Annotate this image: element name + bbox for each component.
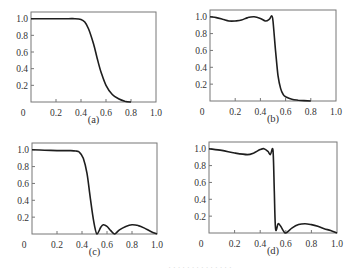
figure-canvas: 0.20.40.60.81.000.20.40.60.81.0(a)0.20.4… [0, 0, 354, 274]
x-tick-label: 1.0 [331, 239, 343, 249]
y-tick-label: 1.0 [195, 12, 207, 22]
plot-frame [32, 143, 157, 234]
panel-caption: (b) [267, 113, 280, 125]
x-tick-label: 1.0 [150, 108, 162, 118]
y-tick-label: 0.8 [195, 29, 207, 39]
chart-panel-a: 0.20.40.60.81.000.20.40.60.81.0(a) [16, 12, 162, 126]
chart-panel-d: 0.20.40.60.81.000.20.40.60.81.0(d) [194, 142, 343, 257]
y-tick-label: 0.4 [194, 195, 206, 205]
y-tick-label: 0.2 [195, 80, 207, 90]
x-tick-label: 0.4 [76, 240, 88, 250]
x-tick-label: 1.0 [151, 240, 163, 250]
y-tick-label: 0.8 [17, 162, 29, 172]
x-tick-label: 0.2 [51, 240, 63, 250]
response-curve [31, 19, 131, 102]
x-tick-label: 0.8 [126, 240, 138, 250]
y-tick-label: 0.2 [17, 213, 29, 223]
x-tick-label: 0.6 [280, 239, 292, 249]
panel-caption: (a) [88, 114, 100, 126]
x-tick-label: 0.6 [101, 240, 113, 250]
y-tick-label: 0.4 [16, 64, 28, 74]
x-tick-label: 0.2 [229, 107, 241, 117]
y-tick-label: 1.0 [16, 14, 28, 24]
x-tick-label: 0.8 [305, 107, 317, 117]
y-tick-label: 1.0 [194, 144, 206, 154]
panel-caption: (c) [89, 246, 101, 258]
y-tick-label: 0.6 [194, 178, 206, 188]
response-curve [210, 16, 311, 101]
y-tick-label: 0.4 [195, 63, 207, 73]
x-tick-label: 0.2 [229, 239, 241, 249]
x-tick-label: 0 [200, 107, 205, 117]
y-tick-label: 0.6 [17, 179, 29, 189]
panel-caption: (d) [267, 245, 280, 257]
y-tick-label: 1.0 [17, 145, 29, 155]
x-tick-label: 0 [22, 240, 27, 250]
y-tick-label: 0.2 [16, 81, 28, 91]
response-curve [209, 148, 337, 233]
x-tick-label: 0.2 [50, 108, 62, 118]
x-tick-label: 0.6 [280, 107, 292, 117]
x-tick-label: 0.6 [100, 108, 112, 118]
y-tick-label: 0.4 [17, 196, 29, 206]
x-tick-label: 0.4 [254, 239, 266, 249]
figure-footer-caption: · · · · · · · · · · · · · · [168, 263, 231, 272]
x-tick-label: 0.4 [75, 108, 87, 118]
y-tick-label: 0.8 [16, 31, 28, 41]
response-curve [32, 150, 157, 234]
plot-frame [31, 12, 156, 102]
x-tick-label: 0.8 [125, 108, 137, 118]
x-tick-label: 0.4 [254, 107, 266, 117]
chart-panel-c: 0.20.40.60.81.000.20.40.60.81.0(c) [17, 143, 163, 258]
y-tick-label: 0.2 [194, 212, 206, 222]
x-tick-label: 0 [21, 108, 26, 118]
x-tick-label: 1.0 [330, 107, 342, 117]
y-tick-label: 0.6 [16, 48, 28, 58]
y-tick-label: 0.8 [194, 161, 206, 171]
x-tick-label: 0 [199, 239, 204, 249]
x-tick-label: 0.8 [305, 239, 317, 249]
chart-panel-b: 0.20.40.60.81.000.20.40.60.81.0(b) [195, 10, 342, 125]
y-tick-label: 0.6 [195, 46, 207, 56]
